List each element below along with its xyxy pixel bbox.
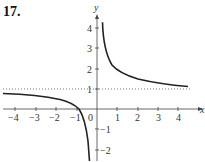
svg-text:4: 4 [176, 112, 181, 123]
svg-text:3: 3 [156, 112, 161, 123]
x-axis-label: x [199, 104, 205, 115]
function-plot: x y −4 −3 −2 −1 0 1 2 3 4 4 3 2 1 −1 [0, 0, 205, 161]
y-axis-arrow-icon [95, 14, 99, 19]
y-axis-label: y [93, 2, 99, 13]
svg-text:−2: −2 [49, 112, 60, 123]
svg-text:−4: −4 [8, 112, 19, 123]
svg-text:−2: −2 [100, 145, 111, 156]
x-tick-labels: −4 −3 −2 −1 0 1 2 3 4 [8, 112, 181, 123]
curve-right-branch [103, 22, 189, 86]
svg-text:4: 4 [87, 23, 92, 34]
svg-text:0: 0 [88, 112, 93, 123]
svg-text:−3: −3 [29, 112, 40, 123]
y-tick-labels: 4 3 2 1 −1 −2 [87, 23, 111, 156]
curve-left-branch [3, 94, 90, 162]
svg-text:1: 1 [115, 112, 120, 123]
svg-text:2: 2 [87, 64, 92, 75]
svg-text:−1: −1 [70, 112, 81, 123]
svg-text:1: 1 [87, 84, 92, 95]
svg-text:2: 2 [135, 112, 140, 123]
svg-text:−1: −1 [100, 124, 111, 135]
svg-text:3: 3 [87, 43, 92, 54]
